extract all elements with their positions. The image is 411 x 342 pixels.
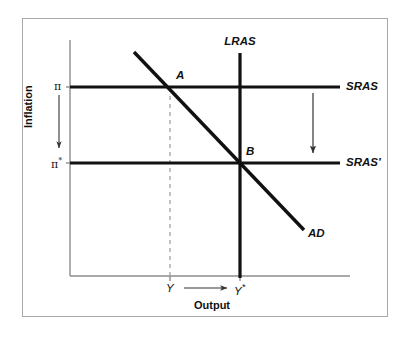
figure-panel: [22, 18, 388, 317]
y-glyph: Y: [166, 282, 174, 294]
x-tick-label-y: Y: [166, 283, 174, 295]
y-axis-title: Inflation: [22, 85, 34, 128]
ad-label: AD: [308, 228, 325, 240]
figure-root: LRAS SRAS SRAS' AD A B π π* Y Y* Output …: [0, 0, 411, 342]
pi-glyph: π: [54, 80, 61, 93]
y-tick-label-pi: π: [54, 81, 61, 92]
point-a-label: A: [176, 70, 184, 82]
y-star-glyph: Y: [234, 285, 242, 297]
y-tick-label-pi-star: π*: [51, 157, 62, 170]
x-axis-title: Output: [194, 300, 230, 311]
sras-prime-label: SRAS': [346, 157, 381, 169]
sras-label: SRAS: [346, 81, 378, 93]
y-star-superscript: *: [242, 282, 246, 292]
pi-star-superscript: *: [58, 156, 62, 165]
x-tick-label-y-star: Y*: [234, 283, 245, 297]
point-b-label: B: [246, 146, 254, 158]
lras-label: LRAS: [224, 36, 255, 48]
